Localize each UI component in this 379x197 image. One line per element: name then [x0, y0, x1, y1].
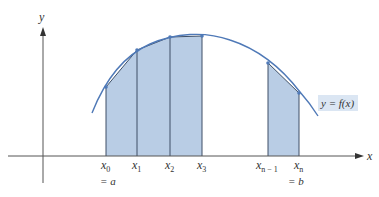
trapezoid-2	[137, 37, 170, 156]
label-x2: x2	[164, 158, 174, 174]
y-axis-label: y	[38, 10, 45, 24]
label-equals-b: = b	[288, 175, 304, 187]
trapezoid-n	[268, 63, 299, 156]
x-axis-label: x	[366, 149, 373, 163]
curve-label: y = f(x)	[320, 97, 354, 110]
trapezoid-3	[170, 36, 202, 156]
label-x3: x3	[196, 158, 206, 174]
point-x3	[200, 34, 204, 38]
label-xn-1: xn − 1	[255, 158, 278, 174]
label-x1: x1	[131, 158, 141, 174]
point-x1	[135, 48, 139, 52]
partition-labels: x0 x1 x2 x3 xn − 1 xn = a = b	[100, 158, 304, 187]
point-x2	[168, 35, 172, 39]
point-xn	[297, 91, 301, 95]
label-xn: xn	[293, 158, 303, 174]
point-xn-1	[266, 61, 270, 65]
y-axis-arrow-icon	[40, 27, 46, 36]
label-x0: x0	[100, 158, 110, 174]
trapezoid-rule-diagram: x y y = f(x) x0 x1 x2 x3 xn − 1 xn = a =…	[0, 0, 379, 197]
x-axis-arrow-icon	[355, 153, 364, 159]
label-equals-a: = a	[100, 175, 116, 187]
trapezoid-1	[106, 50, 137, 156]
point-x0	[104, 85, 108, 89]
